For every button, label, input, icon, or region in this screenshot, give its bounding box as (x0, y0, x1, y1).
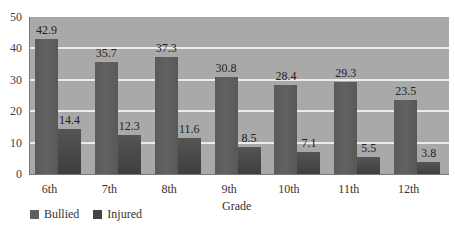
gridline (30, 79, 449, 81)
y-tick-label: 0 (0, 168, 22, 180)
bar-bullied-11th (334, 82, 357, 174)
data-label: 23.5 (386, 85, 426, 97)
legend-swatch-bullied (30, 210, 39, 219)
plot-area: 42.914.435.712.337.311.630.88.528.47.129… (29, 17, 449, 175)
data-label: 42.9 (27, 24, 67, 36)
bar-injured-10th (297, 152, 320, 174)
y-tick-label: 40 (0, 42, 22, 54)
bar-injured-8th (178, 138, 201, 174)
bar-injured-6th (58, 129, 81, 174)
data-label: 14.4 (50, 114, 90, 126)
bar-bullied-8th (155, 57, 178, 174)
bar-injured-7th (118, 135, 141, 174)
y-tick-label: 50 (0, 11, 22, 23)
data-label: 35.7 (86, 47, 126, 59)
bar-injured-9th (238, 147, 261, 174)
x-tick-label: 10th (269, 183, 309, 195)
data-label: 7.1 (289, 137, 329, 149)
data-label: 5.5 (349, 142, 389, 154)
x-tick-label: 12th (389, 183, 429, 195)
legend-label-injured: Injured (107, 207, 142, 222)
bar-bullied-9th (215, 77, 238, 174)
bar-bullied-12th (394, 100, 417, 174)
legend-swatch-injured (93, 210, 102, 219)
y-tick-label: 10 (0, 137, 22, 149)
bar-injured-11th (357, 157, 380, 174)
data-label: 3.8 (409, 147, 449, 159)
x-tick-label: 8th (149, 183, 189, 195)
data-label: 8.5 (229, 132, 269, 144)
data-label: 37.3 (146, 42, 186, 54)
x-tick-label: 6th (30, 183, 70, 195)
y-tick-label: 30 (0, 74, 22, 86)
bar-bullied-7th (95, 62, 118, 174)
legend: Bullied Injured (30, 207, 142, 222)
x-tick-label: 11th (329, 183, 369, 195)
gridline (30, 110, 449, 112)
data-label: 28.4 (266, 70, 306, 82)
data-label: 29.3 (326, 67, 366, 79)
y-tick-label: 20 (0, 105, 22, 117)
legend-item-injured: Injured (93, 207, 142, 222)
legend-item-bullied: Bullied (30, 207, 79, 222)
bar-bullied-10th (274, 85, 297, 174)
data-label: 11.6 (169, 123, 209, 135)
x-axis-label: Grade (222, 199, 251, 214)
x-tick-label: 7th (89, 183, 129, 195)
data-label: 30.8 (206, 62, 246, 74)
x-tick-label: 9th (209, 183, 249, 195)
data-label: 12.3 (109, 120, 149, 132)
bar-bullied-6th (35, 39, 58, 174)
bar-injured-12th (417, 162, 440, 174)
legend-label-bullied: Bullied (44, 207, 79, 222)
